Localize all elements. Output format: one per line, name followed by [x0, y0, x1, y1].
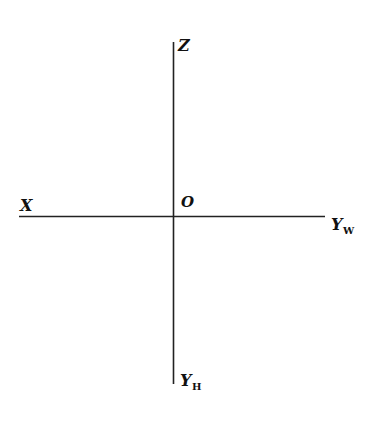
yh-axis-label: Y H — [180, 371, 201, 392]
yw-axis-label: Y W — [331, 215, 355, 236]
z-axis-label: Z — [177, 36, 191, 55]
yw-axis-label-subscript: W — [342, 225, 355, 236]
x-axis-label: X — [19, 196, 33, 215]
projection-axes-diagram: Z O X Y W Y H — [0, 0, 379, 423]
origin-label: O — [181, 193, 194, 211]
yh-axis-label-subscript: H — [192, 381, 201, 392]
